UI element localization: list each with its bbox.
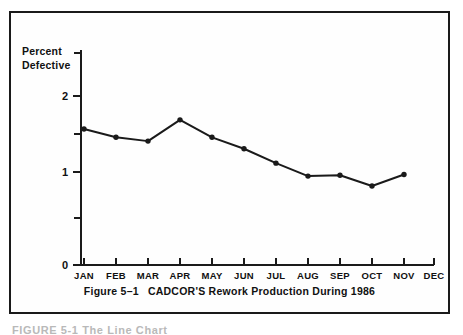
x-tick-label-jun: JUN — [234, 270, 254, 281]
data-point-aug — [305, 173, 310, 178]
y-tick-label-1: 1 — [62, 166, 68, 178]
x-tick-label-apr: APR — [170, 270, 191, 281]
x-tick-label-jan: JAN — [74, 270, 94, 281]
caption-number: Figure 5–1 — [84, 285, 139, 297]
data-point-oct — [369, 183, 374, 188]
data-point-markers — [81, 117, 406, 189]
data-point-jul — [273, 160, 278, 165]
data-series-line — [84, 120, 404, 186]
y-axis-title-line2: Defective — [22, 59, 71, 71]
page-footer-cut-text: FIGURE 5-1 The Line Chart — [12, 325, 292, 335]
data-point-apr — [177, 117, 182, 122]
y-tick-label-0: 0 — [62, 259, 68, 271]
x-tick-label-mar: MAR — [137, 270, 160, 281]
x-tick-label-may: MAY — [201, 270, 223, 281]
figure-caption: Figure 5–1CADCOR'S Rework Production Dur… — [11, 285, 448, 297]
data-point-nov — [401, 172, 406, 177]
x-tick-label-jul: JUL — [267, 270, 286, 281]
x-tick-label-sep: SEP — [330, 270, 350, 281]
data-point-mar — [145, 138, 150, 143]
x-tick-label-aug: AUG — [297, 270, 319, 281]
x-tick-label-nov: NOV — [393, 270, 415, 281]
x-tick-label-oct: OCT — [362, 270, 383, 281]
x-tick-label-dec: DEC — [424, 270, 445, 281]
figure-container: 0 1 2 Percent Defective JAN FEB MAR APR … — [0, 0, 463, 335]
y-axis-major-ticks — [73, 96, 81, 265]
data-point-may — [209, 135, 214, 140]
y-axis-minor-ticks — [74, 53, 81, 218]
y-axis-title-line1: Percent — [22, 45, 62, 57]
data-point-feb — [113, 135, 118, 140]
x-axis-ticks — [84, 258, 434, 265]
data-point-jun — [241, 146, 246, 151]
y-tick-label-2: 2 — [62, 90, 68, 102]
x-tick-label-feb: FEB — [106, 270, 126, 281]
data-point-jan — [81, 126, 86, 131]
data-point-sep — [337, 173, 342, 178]
caption-title: CADCOR'S Rework Production During 1986 — [148, 285, 375, 297]
